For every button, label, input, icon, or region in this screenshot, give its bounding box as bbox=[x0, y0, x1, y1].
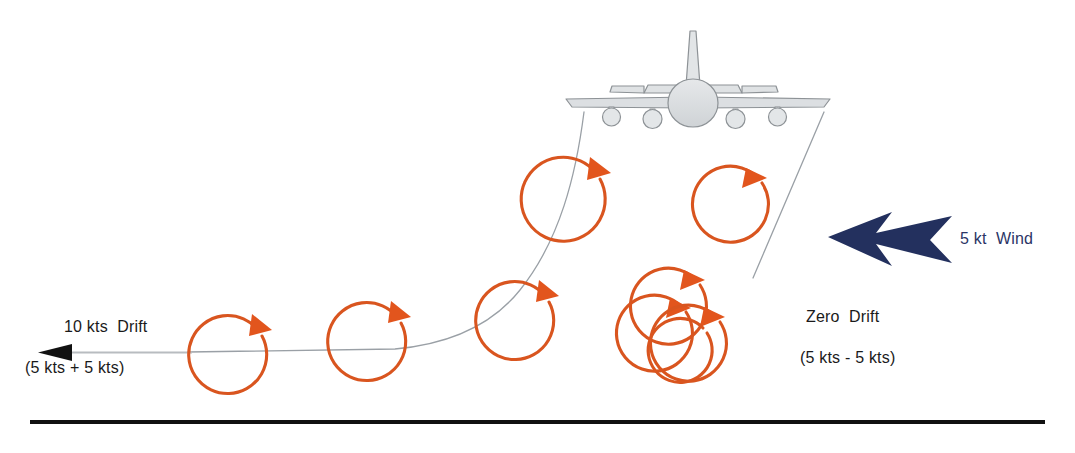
upwind-vortex-group bbox=[189, 157, 611, 394]
aircraft-fuselage bbox=[668, 79, 718, 127]
aircraft-vertical-stabilizer bbox=[686, 31, 700, 86]
diagram-canvas bbox=[0, 0, 1075, 453]
vortex-track-group bbox=[188, 112, 824, 352]
vortex-circle-icon bbox=[648, 318, 712, 382]
vortex-circle-icon bbox=[328, 301, 411, 381]
upwind-drift-title: 10 kts Drift bbox=[64, 316, 148, 337]
aircraft-stab-left-tip bbox=[610, 86, 644, 93]
downwind-vortex-group bbox=[616, 166, 768, 382]
aircraft-stab-right-tip bbox=[742, 86, 778, 93]
downwind-drift-detail: (5 kts - 5 kts) bbox=[800, 347, 895, 368]
aircraft-right-wing bbox=[700, 97, 830, 108]
vortex-drift-diagram: 10 kts Drift (5 kts + 5 kts) Zero Drift … bbox=[0, 0, 1075, 453]
airplane-front-view-icon bbox=[566, 31, 830, 129]
downwind-drift-title: Zero Drift bbox=[806, 306, 879, 327]
upwind-drift-detail: (5 kts + 5 kts) bbox=[25, 357, 124, 378]
vortex-circle-icon bbox=[692, 166, 768, 242]
upwind-vortex-track bbox=[188, 112, 584, 352]
wind-arrow-left-icon bbox=[828, 212, 952, 266]
wind-label: 5 kt Wind bbox=[960, 228, 1033, 249]
vortex-circle-icon bbox=[189, 314, 272, 394]
downwind-vortex-track bbox=[753, 112, 824, 278]
